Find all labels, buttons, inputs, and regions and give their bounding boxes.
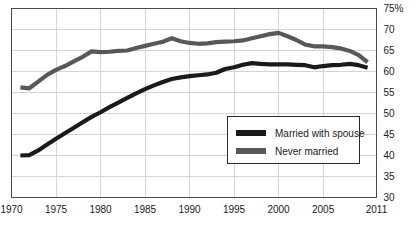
y-tick-label: 70 [384, 24, 395, 35]
x-tick-label: 1975 [36, 204, 76, 215]
y-tick-label: 75% [384, 3, 404, 14]
chart-plot-area [0, 0, 418, 228]
x-tick-label: 1995 [214, 204, 254, 215]
x-tick-label: 1970 [0, 204, 32, 215]
legend-swatch-married-with-spouse [236, 130, 266, 136]
x-tick-label: 1990 [170, 204, 210, 215]
legend-swatch-never-married [236, 148, 266, 154]
y-tick-label: 65 [384, 45, 395, 56]
gridlines-vertical [56, 9, 323, 198]
y-tick-label: 40 [384, 150, 395, 161]
legend-item-married-with-spouse: Married with spouse [236, 126, 364, 140]
x-tick-label: 2011 [357, 204, 397, 215]
legend-label-married-with-spouse: Married with spouse [275, 128, 364, 139]
y-tick-label: 60 [384, 66, 395, 77]
y-tick-label: 55 [384, 87, 395, 98]
y-tick-label: 30 [384, 192, 395, 203]
x-tick-label: 1980 [81, 204, 121, 215]
chart-container: 30354045505560657075% 197019751980198519… [0, 0, 418, 228]
x-tick-label: 2005 [303, 204, 343, 215]
legend-item-never-married: Never married [236, 144, 338, 158]
chart-legend: Married with spouse Never married [227, 116, 360, 164]
legend-label-never-married: Never married [275, 146, 338, 157]
plot-frame [12, 9, 377, 198]
x-tick-label: 2000 [259, 204, 299, 215]
y-tick-label: 45 [384, 129, 395, 140]
y-tick-label: 50 [384, 108, 395, 119]
y-tick-label: 35 [384, 171, 395, 182]
x-tick-label: 1985 [125, 204, 165, 215]
